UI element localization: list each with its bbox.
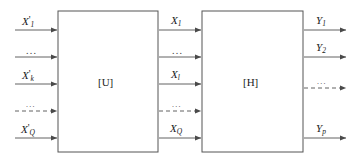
middle-label-3-sub: l — [178, 73, 180, 82]
middle-label-4-ellipsis: ... — [172, 101, 182, 109]
input-label-3-base: X — [22, 69, 29, 81]
input-label-4-ellipsis: ... — [26, 101, 36, 109]
output-label-2-sub: 2 — [322, 46, 326, 55]
input-label-3: X'k — [22, 69, 34, 83]
block-u-label: [U] — [98, 77, 113, 88]
input-label-2-ellipsis: ... — [26, 46, 37, 56]
middle-label-1: X1 — [171, 15, 181, 28]
middle-label-5: XQ — [170, 123, 182, 136]
output-label-2: Y2 — [316, 42, 326, 55]
output-label-4-sub: p — [322, 127, 326, 136]
block-h-label: [H] — [243, 77, 258, 88]
input-label-1-sub: 1 — [31, 20, 35, 29]
output-label-4: Yp — [316, 123, 326, 136]
middle-label-1-sub: 1 — [178, 19, 182, 28]
block-diagram: [U] [H] X'1 ... X'k ... X'Q X1 ... Xl ..… — [0, 0, 359, 164]
output-label-3-ellipsis: ... — [317, 78, 327, 86]
input-label-5: X'Q — [21, 123, 35, 137]
middle-label-5-base: X — [170, 122, 177, 134]
input-label-5-sub: Q — [30, 128, 35, 137]
input-label-5-base: X — [21, 123, 28, 135]
middle-label-3: Xl — [171, 69, 180, 82]
input-label-1-base: X — [22, 15, 29, 27]
input-label-3-sub: k — [31, 74, 34, 83]
output-label-1: Y1 — [316, 15, 326, 28]
middle-label-5-sub: Q — [177, 127, 182, 136]
input-label-1: X'1 — [22, 15, 34, 29]
output-label-1-sub: 1 — [322, 19, 326, 28]
middle-label-3-base: X — [171, 68, 178, 80]
middle-label-2-ellipsis: ... — [172, 46, 183, 56]
middle-label-1-base: X — [171, 14, 178, 26]
